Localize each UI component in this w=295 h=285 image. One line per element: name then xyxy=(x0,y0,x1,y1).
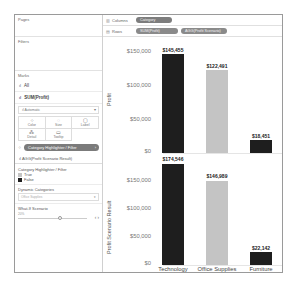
detail-button[interactable]: ⁂Detail xyxy=(19,129,46,141)
parameter-title: Dynamic Categories xyxy=(18,187,99,192)
color-label: Color xyxy=(28,123,36,127)
detail-label: Detail xyxy=(27,135,36,139)
tooltip-label: Tooltip xyxy=(53,135,63,139)
tableau-workspace: Pages Filters Marks ılAll ılSUM(Profit) … xyxy=(14,14,283,273)
chevron-down-icon: ▾ xyxy=(94,107,96,113)
marks-row-label: SUM(Profit) xyxy=(24,95,49,100)
x-label-furniture: Furniture xyxy=(236,266,286,272)
dynamic-categories-dropdown[interactable]: Office Supplies▾ xyxy=(18,193,99,201)
marks-row-all[interactable]: ılAll xyxy=(15,80,102,92)
x-label-office-supplies: Office Supplies xyxy=(192,266,242,272)
y-tick: $50,000 xyxy=(111,116,151,122)
y-axis-label-profit: Profit xyxy=(106,93,112,106)
color-icon: ⁘ xyxy=(18,145,21,150)
y-tick: $150,000 xyxy=(111,177,151,183)
y-tick: $0 xyxy=(111,148,151,154)
bar-label: $146,989 xyxy=(197,173,237,179)
slider-track[interactable] xyxy=(18,218,87,219)
color-legend: Category Highlighter / Filter True False xyxy=(15,164,102,185)
bar-chart-icon: ıl xyxy=(19,83,21,88)
marks-card: Marks ılAll ılSUM(Profit) ıl Automatic▾ … xyxy=(15,71,102,164)
legend-label: False xyxy=(24,177,34,182)
pages-shelf[interactable]: Pages xyxy=(15,15,102,37)
label-button[interactable]: ▢Label xyxy=(72,117,99,129)
y-tick: $150,000 xyxy=(111,48,151,54)
columns-shelf[interactable]: ▥Columns Category xyxy=(103,15,282,26)
slider-thumb[interactable] xyxy=(58,216,62,220)
bar-label: $145,455 xyxy=(153,47,193,53)
filters-shelf[interactable]: Filters xyxy=(15,37,102,71)
columns-label: Columns xyxy=(112,18,128,23)
bar-office-supplies-profit[interactable] xyxy=(206,70,228,153)
color-pill-row: ⁘ Category Highlighter / Filter› xyxy=(18,144,99,151)
marks-row-sum-profit[interactable]: ılSUM(Profit) xyxy=(15,92,102,104)
color-button[interactable]: ⁘Color xyxy=(19,117,46,129)
dynamic-categories-parameter: Dynamic Categories Office Supplies▾ xyxy=(15,185,102,204)
rows-icon: ▤ xyxy=(106,30,110,34)
pane-divider xyxy=(163,153,282,154)
x-label-technology: Technology xyxy=(148,266,198,272)
bar-technology-profit[interactable] xyxy=(162,54,184,153)
rows-label: Rows xyxy=(112,29,122,34)
tooltip-button[interactable]: ▭Tooltip xyxy=(46,129,73,141)
columns-icon: ▥ xyxy=(106,19,110,23)
y-tick: $100,000 xyxy=(111,82,151,88)
category-highlighter-pill[interactable]: Category Highlighter / Filter› xyxy=(24,144,99,151)
marks-row-label: All xyxy=(24,83,29,88)
what-if-slider[interactable]: ‹ › xyxy=(18,216,99,221)
label-label: Label xyxy=(81,123,90,127)
y-tick: $0 xyxy=(111,260,151,266)
marks-row-label: AGG(Profit Scenario Result) xyxy=(22,156,72,161)
bar-label: $22,142 xyxy=(241,245,281,251)
left-panel: Pages Filters Marks ılAll ılSUM(Profit) … xyxy=(15,15,103,272)
pages-label: Pages xyxy=(15,15,102,24)
what-if-parameter: What-If Scenario 20% ‹ › xyxy=(15,204,102,223)
sum-profit-pill[interactable]: SUM(Profit) xyxy=(136,28,178,34)
chevron-icon: › xyxy=(95,144,96,151)
view-area: ▥Columns Category ▤Rows SUM(Profit) AGG(… xyxy=(103,15,282,272)
marks-label: Marks xyxy=(15,71,102,80)
category-pill[interactable]: Category xyxy=(136,17,172,23)
step-buttons[interactable]: ‹ › xyxy=(95,215,99,220)
pill-label: Category Highlighter / Filter xyxy=(28,145,77,150)
chevron-down-icon: ▾ xyxy=(94,194,96,200)
bar-furniture-profit[interactable] xyxy=(250,140,272,153)
dropdown-value: Office Supplies xyxy=(21,195,42,199)
filters-label: Filters xyxy=(15,37,102,46)
bar-label: $174,546 xyxy=(153,156,193,162)
bar-office-supplies-scenario[interactable] xyxy=(206,181,228,265)
agg-profit-scenario-pill[interactable]: AGG(Profit Scenario) xyxy=(181,28,227,34)
size-label: Size xyxy=(55,123,62,127)
bar-chart: Profit $150,000 $100,000 $50,000 $0 $145… xyxy=(103,36,282,272)
mark-type-value: Automatic xyxy=(25,108,41,112)
y-tick: $50,000 xyxy=(111,233,151,239)
bar-label: $18,451 xyxy=(241,133,281,139)
legend-swatch xyxy=(18,173,22,177)
bar-furniture-scenario[interactable] xyxy=(250,252,272,265)
parameter-title: What-If Scenario xyxy=(18,206,99,211)
marks-row-agg-profit-scenario[interactable]: ıl AGG(Profit Scenario Result) xyxy=(15,154,102,164)
mark-type-dropdown[interactable]: ıl Automatic▾ xyxy=(18,106,99,114)
bar-chart-icon: ıl xyxy=(19,95,21,100)
marks-buttons: ⁘Color ◌Size ▢Label ⁂Detail ▭Tooltip xyxy=(18,116,99,141)
bar-technology-scenario[interactable] xyxy=(162,164,184,265)
legend-swatch xyxy=(18,178,22,182)
y-tick: $100,000 xyxy=(111,205,151,211)
legend-item-false[interactable]: False xyxy=(18,177,99,182)
bar-label: $122,491 xyxy=(197,63,237,69)
size-button[interactable]: ◌Size xyxy=(46,117,73,129)
